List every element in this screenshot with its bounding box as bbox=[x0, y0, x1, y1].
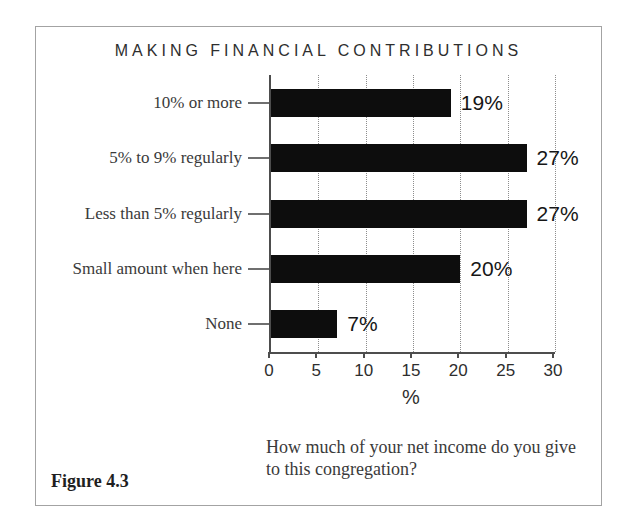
x-axis-tick bbox=[505, 352, 507, 358]
figure-frame: MAKING FINANCIAL CONTRIBUTIONS 19%27%27%… bbox=[35, 26, 602, 506]
category-label: 10% or more bbox=[36, 92, 242, 114]
category-label: Less than 5% regularly bbox=[36, 203, 242, 225]
x-axis-tick-label: 15 bbox=[402, 361, 421, 381]
category-label: Small amount when here bbox=[36, 258, 242, 280]
bar-value-label: 27% bbox=[537, 144, 579, 172]
plot-area: 19%27%27%20%7% bbox=[269, 75, 555, 354]
x-axis-tick bbox=[552, 352, 554, 358]
category-tick-connector bbox=[248, 268, 269, 270]
bar-value-label: 20% bbox=[470, 255, 512, 283]
bar bbox=[271, 200, 527, 228]
bar bbox=[271, 310, 337, 338]
page: MAKING FINANCIAL CONTRIBUTIONS 19%27%27%… bbox=[0, 0, 629, 524]
bar bbox=[271, 144, 527, 172]
category-tick-connector bbox=[248, 213, 269, 215]
x-axis-tick-label: 0 bbox=[264, 361, 273, 381]
category-label: None bbox=[36, 313, 242, 335]
x-axis-tick-label: 20 bbox=[449, 361, 468, 381]
x-axis-tick-label: 5 bbox=[312, 361, 321, 381]
bar-value-label: 19% bbox=[461, 89, 503, 117]
bar-value-label: 7% bbox=[347, 310, 377, 338]
category-label: 5% to 9% regularly bbox=[36, 147, 242, 169]
x-axis-tick bbox=[410, 352, 412, 358]
bar bbox=[271, 89, 451, 117]
x-axis-title: % bbox=[269, 386, 553, 409]
x-axis-tick bbox=[457, 352, 459, 358]
chart-caption: How much of your net income do you give … bbox=[266, 436, 576, 480]
category-tick-connector bbox=[248, 102, 269, 104]
figure-number-label: Figure 4.3 bbox=[51, 471, 129, 492]
caption-line-2: to this congregation? bbox=[266, 458, 576, 480]
x-axis-tick-label: 30 bbox=[544, 361, 563, 381]
bar-value-label: 27% bbox=[537, 200, 579, 228]
bar bbox=[271, 255, 460, 283]
chart-area: 19%27%27%20%7% 10% or more5% to 9% regul… bbox=[36, 75, 603, 352]
category-tick-connector bbox=[248, 157, 269, 159]
x-axis-tick bbox=[363, 352, 365, 358]
x-axis-tick bbox=[315, 352, 317, 358]
category-tick-connector bbox=[248, 323, 269, 325]
caption-line-1: How much of your net income do you give bbox=[266, 436, 576, 458]
x-axis-tick-label: 10 bbox=[354, 361, 373, 381]
chart-title: MAKING FINANCIAL CONTRIBUTIONS bbox=[36, 42, 601, 60]
x-axis-tick-label: 25 bbox=[496, 361, 515, 381]
x-axis-tick bbox=[268, 352, 270, 358]
x-axis: 051015202530 bbox=[269, 352, 553, 388]
